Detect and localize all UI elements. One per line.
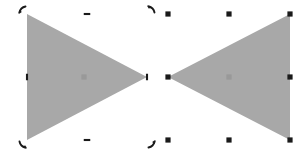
right-triangle-pivot[interactable] <box>223 71 235 83</box>
rotate-handle-bottom-left-hitarea[interactable] <box>17 136 31 150</box>
rotate-handle-top-left-hitarea[interactable] <box>17 4 31 18</box>
skew-handle-middle-right-hitarea[interactable] <box>141 71 153 83</box>
right-triangle-pivot-hitarea[interactable] <box>223 71 235 83</box>
rotate-handle-top-right[interactable] <box>143 4 157 18</box>
resize-handle-top-right[interactable] <box>284 8 296 20</box>
resize-handle-bottom-center[interactable] <box>223 134 235 146</box>
resize-handle-bottom-right-hitarea[interactable] <box>284 134 296 146</box>
object-left-triangle[interactable] <box>17 4 157 150</box>
skew-handle-top-center-hitarea[interactable] <box>81 8 93 20</box>
resize-handle-bottom-left[interactable] <box>162 134 174 146</box>
left-triangle-pivot[interactable] <box>78 71 90 83</box>
skew-handle-middle-right[interactable] <box>141 71 153 83</box>
skew-handle-middle-left[interactable] <box>21 71 33 83</box>
resize-handle-bottom-right[interactable] <box>284 134 296 146</box>
shape-render-layer <box>0 0 302 159</box>
resize-handle-middle-right[interactable] <box>284 71 296 83</box>
rotate-handle-bottom-right[interactable] <box>143 136 157 150</box>
skew-handle-bottom-center[interactable] <box>81 134 93 146</box>
resize-handle-middle-left[interactable] <box>162 71 174 83</box>
canvas-svg <box>0 0 302 159</box>
resize-handle-top-center[interactable] <box>223 8 235 20</box>
resize-handle-middle-right-hitarea[interactable] <box>284 71 296 83</box>
rotate-handle-top-right-hitarea[interactable] <box>143 4 157 18</box>
left-triangle-pivot-hitarea[interactable] <box>78 71 90 83</box>
rotate-handle-top-left[interactable] <box>17 4 31 18</box>
object-right-triangle[interactable] <box>162 8 296 146</box>
resize-handle-top-left[interactable] <box>162 8 174 20</box>
shape-canvas[interactable] <box>0 0 302 159</box>
rotate-handle-bottom-left[interactable] <box>17 136 31 150</box>
resize-handle-top-right-hitarea[interactable] <box>284 8 296 20</box>
skew-handle-bottom-center-hitarea[interactable] <box>81 134 93 146</box>
resize-handle-bottom-center-hitarea[interactable] <box>223 134 235 146</box>
skew-handle-top-center[interactable] <box>81 8 93 20</box>
resize-handle-top-center-hitarea[interactable] <box>223 8 235 20</box>
resize-handle-middle-left-hitarea[interactable] <box>162 71 174 83</box>
rotate-handle-bottom-right-hitarea[interactable] <box>143 136 157 150</box>
resize-handle-bottom-left-hitarea[interactable] <box>162 134 174 146</box>
resize-handle-top-left-hitarea[interactable] <box>162 8 174 20</box>
skew-handle-middle-left-hitarea[interactable] <box>21 71 33 83</box>
